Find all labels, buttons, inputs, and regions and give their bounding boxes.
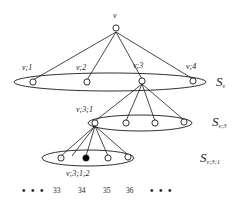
node-v31	[92, 120, 98, 126]
node-label-v2: v;2	[76, 64, 86, 72]
node-label-v4: v;4	[186, 63, 196, 71]
node-v34	[181, 119, 187, 125]
bottom-left-ellipsis: • • •	[22, 186, 45, 196]
nodes-level3	[58, 154, 131, 161]
edge-v31-extra	[72, 126, 95, 156]
node-v3	[139, 78, 145, 84]
nodes-level2	[92, 119, 187, 126]
node-v314	[125, 154, 131, 160]
node-label-v312: v;3;1;2	[66, 170, 90, 178]
edge-v-to-v4	[116, 32, 193, 79]
node-v32	[123, 120, 129, 126]
bottom-number-34: 34	[78, 187, 86, 195]
set-label-s-v: Sv	[216, 73, 225, 89]
tree-diagram-figure: v v;1 v;2 v;3 v;4 v;3;1 v;3;1;2 Sv Sv;3 …	[0, 0, 243, 205]
bottom-number-33: 33	[53, 187, 61, 195]
node-label-v3: v;3	[133, 62, 143, 70]
node-v33	[152, 120, 158, 126]
bottom-number-35: 35	[103, 187, 111, 195]
ellipse-group	[14, 73, 206, 166]
node-v2	[84, 79, 90, 85]
edge-v31-to-child1	[61, 126, 95, 156]
edge-v31-to-child3	[95, 126, 108, 156]
node-label-v: v	[113, 12, 117, 20]
set-label-s-v31: Sv;3;1	[200, 149, 220, 165]
set-label-s-v31-sub: v;3;1	[207, 159, 221, 165]
node-v312-marked	[83, 155, 89, 161]
node-v313	[105, 155, 111, 161]
set-label-s-v-sub: v	[223, 83, 226, 89]
diagram-canvas	[0, 0, 243, 205]
edge-v-to-v3	[116, 32, 142, 79]
ellipse-s-v3	[88, 115, 192, 131]
bottom-right-ellipsis: • • •	[150, 186, 173, 196]
node-v311	[58, 155, 64, 161]
set-label-s-v3-sub: v;3	[219, 123, 227, 129]
ellipse-s-v	[14, 73, 206, 91]
node-v	[113, 25, 119, 31]
bottom-number-36: 36	[126, 187, 134, 195]
node-label-v31: v;3;1	[76, 106, 93, 114]
set-label-s-v3: Sv;3	[212, 113, 227, 129]
node-v1	[30, 79, 36, 85]
node-v4	[190, 78, 196, 84]
node-label-v1: v;1	[22, 64, 32, 72]
